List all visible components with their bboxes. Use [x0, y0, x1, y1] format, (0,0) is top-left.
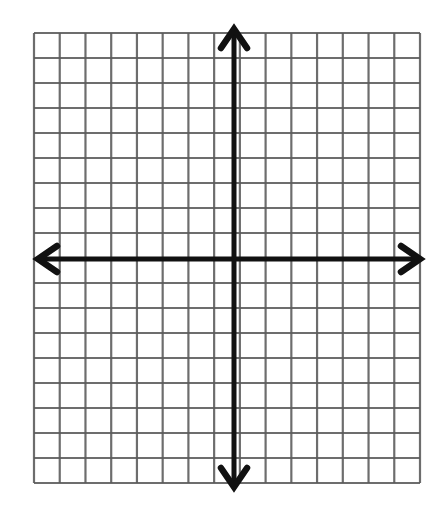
coordinate-plane-svg: [0, 0, 444, 506]
coordinate-plane-figure: Blank Coordinate Plane Graph Paper Blank…: [0, 0, 444, 506]
figure-background: [0, 0, 444, 506]
